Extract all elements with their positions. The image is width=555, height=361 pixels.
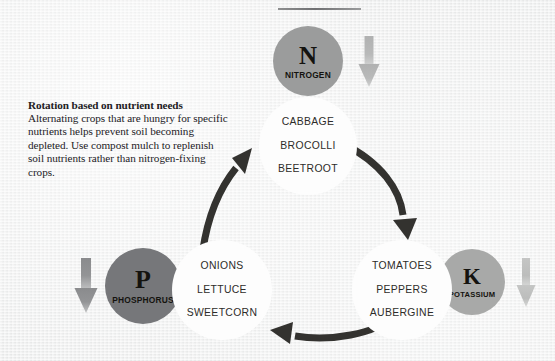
phosphorus-down-arrow-icon xyxy=(74,258,98,314)
crop-group-right[interactable]: TOMATOES PEPPERS AUBERGINE xyxy=(352,240,452,340)
crop-name: SWEETCORN xyxy=(187,308,258,318)
crop-name: CABBAGE xyxy=(282,117,335,127)
crop-name: LETTUCE xyxy=(197,285,247,295)
crop-name: BROCOLLI xyxy=(280,141,335,151)
crop-name: BEETROOT xyxy=(278,164,338,174)
potassium-down-arrow-icon xyxy=(516,258,536,308)
crop-name: ONIONS xyxy=(200,261,243,271)
nutrient-circle-nitrogen[interactable]: N NITROGEN xyxy=(273,26,343,96)
nutrient-letter-potassium: K xyxy=(463,265,481,288)
crop-group-left[interactable]: ONIONS LETTUCE SWEETCORN xyxy=(172,240,272,340)
crop-rotation-diagram: Rotation based on nutrient needs Alterna… xyxy=(0,0,555,361)
nutrient-label-nitrogen: NITROGEN xyxy=(285,71,331,79)
top-divider-rule xyxy=(278,8,361,10)
nitrogen-down-arrow-icon xyxy=(358,36,380,88)
nutrient-letter-phosphorus: P xyxy=(135,267,151,293)
crop-name: TOMATOES xyxy=(372,261,432,271)
rotation-note: Rotation based on nutrient needs Alterna… xyxy=(28,98,228,179)
crop-group-top[interactable]: CABBAGE BROCOLLI BEETROOT xyxy=(259,97,357,195)
nutrient-label-phosphorus: PHOSPHORUS xyxy=(112,296,174,304)
rotation-note-title: Rotation based on nutrient needs xyxy=(28,98,228,112)
crop-name: AUBERGINE xyxy=(370,308,434,318)
rotation-note-body: Alternating crops that are hungry for sp… xyxy=(28,112,228,179)
nutrient-circle-phosphorus[interactable]: P PHOSPHORUS xyxy=(105,248,181,324)
nutrient-letter-nitrogen: N xyxy=(299,43,317,68)
nutrient-label-potassium: POTASSIUM xyxy=(449,291,495,299)
crop-name: PEPPERS xyxy=(376,285,428,295)
